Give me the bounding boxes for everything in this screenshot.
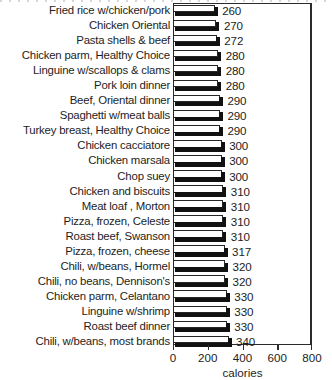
bar [173,170,225,182]
bar-row: Chop suey300 [0,169,332,184]
bar-category-label: Roast beef dinner [0,319,172,334]
bar-category-label: Fried rice w/chicken/pork [0,3,172,18]
bar [173,35,220,47]
bar-value-label: 310 [231,199,250,214]
bar-row: Chili, no beans, Dennison's320 [0,274,332,289]
bar-category-label: Chicken and biscuits [0,184,172,199]
bar-value-label: 330 [234,319,253,334]
bar-cell: 330 [172,289,332,304]
bar-end-cap [226,293,229,299]
bar-shadow [175,57,221,61]
bar-value-label: 300 [229,169,248,184]
bar-category-label: Spaghetti w/meat balls [0,108,172,123]
bar-value-label: 330 [234,304,253,319]
x-tick-label: 800 [302,351,321,364]
bar-row: Meat loaf , Morton310 [0,199,332,214]
bar [173,20,220,32]
bar-row: Chicken Oriental270 [0,18,332,33]
x-tick-label: 200 [198,351,217,364]
bar [173,245,228,257]
bar [173,290,230,302]
bar-category-label: Chili, no beans, Dennison's [0,274,172,289]
bar-category-label: Roast beef, Swanson [0,229,172,244]
bar-row: Pizza, frozen, cheese317 [0,244,332,259]
bar-category-label: Meat loaf , Morton [0,199,172,214]
bar-shadow [175,42,220,46]
bar-value-label: 310 [231,184,250,199]
bar-row: Fried rice w/chicken/pork260 [0,3,332,18]
bar [173,230,227,242]
bar-category-label: Chicken Oriental [0,18,172,33]
x-tick-label: 0 [170,351,176,364]
bar-category-label: Turkey breast, Healthy Choice [0,123,172,138]
bar-cell: 320 [172,259,332,274]
x-tick-mark [243,345,244,350]
bar-shadow [175,87,221,91]
bar-category-label: Linguine w/shrimp [0,304,172,319]
bar-shadow [175,207,226,211]
bar-category-label: Pasta shells & beef [0,33,172,48]
bar-cell: 290 [172,93,332,108]
bar-cell: 280 [172,48,332,63]
bar-value-label: 290 [227,123,246,138]
bar-row: Linguine w/shrimp330 [0,304,332,319]
bar [173,260,229,272]
bar-end-cap [225,278,228,284]
bar-row: Pizza, frozen, Celeste310 [0,214,332,229]
bar-cell: 330 [172,304,332,319]
bar-category-label: Pork loin dinner [0,78,172,93]
bar-shadow [175,27,219,31]
bar-end-cap [218,52,221,58]
bar-shadow [175,298,230,302]
bar-cell: 280 [172,78,332,93]
bar-shadow [175,252,228,256]
x-tick-label: 400 [233,351,252,364]
bar-shadow [175,192,226,196]
x-tick-mark [277,345,278,350]
bar-cell: 290 [172,108,332,123]
bar-rows: Fried rice w/chicken/pork260Chicken Orie… [0,3,332,349]
bar-category-label: Chop suey [0,169,172,184]
bar-end-cap [228,338,231,344]
bar-row: Linguine w/scallops & clams280 [0,63,332,78]
bar-end-cap [216,37,219,43]
bar-end-cap [216,22,219,28]
bar-cell: 310 [172,199,332,214]
bar-row: Pork loin dinner280 [0,78,332,93]
bar-end-cap [224,248,227,254]
bar-value-label: 310 [231,229,250,244]
bar-row: Chili, w/beans, Hormel320 [0,259,332,274]
bar-category-label: Chicken parm, Healthy Choice [0,48,172,63]
bar-end-cap [219,127,222,133]
bar-value-label: 260 [222,3,241,18]
x-tick-mark [208,345,209,350]
x-tick-label: 600 [268,351,287,364]
bar-end-cap [218,82,221,88]
x-axis-title: calories [173,366,312,379]
bar-category-label: Chili, w/beans, most brands [0,334,172,349]
calories-bar-chart: Fried rice w/chicken/pork260Chicken Orie… [0,0,332,380]
bar-cell: 260 [172,3,332,18]
bar-value-label: 290 [227,108,246,123]
bar [173,275,229,287]
bar-shadow [175,267,228,271]
bar-row: Pasta shells & beef272 [0,33,332,48]
bar-value-label: 320 [233,274,252,289]
bar-end-cap [219,112,222,118]
bar-end-cap [221,172,224,178]
bar-cell: 310 [172,229,332,244]
bar-shadow [175,12,218,16]
bar-shadow [175,237,226,241]
bar-row: Roast beef dinner330 [0,319,332,334]
bar-end-cap [223,217,226,223]
bar-end-cap [218,67,221,73]
bar-shadow [175,283,228,287]
bar-value-label: 320 [233,259,252,274]
bar [173,125,223,137]
bar-end-cap [223,202,226,208]
bar-row: Beef, Oriental dinner290 [0,93,332,108]
bar [173,306,230,318]
bar-category-label: Beef, Oriental dinner [0,93,172,108]
bar-category-label: Pizza, frozen, cheese [0,244,172,259]
bar-end-cap [221,142,224,148]
